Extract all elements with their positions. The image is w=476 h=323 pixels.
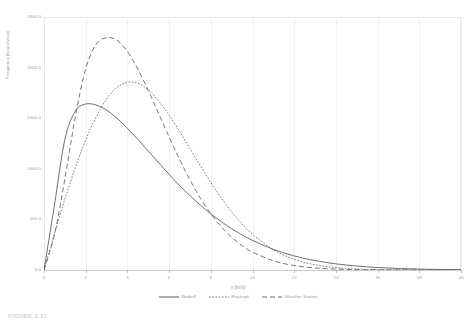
x-tick-label: 12 <box>284 275 304 280</box>
x-tick-label: 8 <box>201 275 221 280</box>
x-tick-mark <box>336 270 337 273</box>
y-axis-tick-labels: 0.0500.01000.01500.02000.02500.0 <box>0 17 41 270</box>
x-tick-mark <box>86 270 87 273</box>
x-tick-label: 20 <box>451 275 471 280</box>
x-tick-mark <box>169 270 170 273</box>
legend-item[interactable]: Weibull <box>159 294 196 299</box>
legend-label: Weibull <box>181 294 196 299</box>
x-tick-mark <box>253 270 254 273</box>
x-tick-label: 18 <box>409 275 429 280</box>
y-tick-label: 2000.0 <box>7 65 41 70</box>
legend-label: Weather Station <box>285 294 318 299</box>
chart-legend: WeibullRayleighWeather Station <box>0 294 476 299</box>
series-line <box>44 38 461 270</box>
chart-curves <box>44 17 461 270</box>
x-tick-mark <box>294 270 295 273</box>
y-tick-label: 0.0 <box>7 267 41 272</box>
y-tick-label: 1000.0 <box>7 166 41 171</box>
legend-item[interactable]: Rayleigh <box>209 294 249 299</box>
gridline-vertical <box>461 17 462 270</box>
x-tick-label: 14 <box>326 275 346 280</box>
curves-svg <box>44 17 461 270</box>
legend-swatch-dotted <box>209 295 229 299</box>
y-tick-label: 500.0 <box>7 216 41 221</box>
legend-label: Rayleigh <box>232 294 250 299</box>
x-axis-tick-labels: 02468101214161820 <box>44 270 461 284</box>
x-tick-label: 10 <box>243 275 263 280</box>
legend-item[interactable]: Weather Station <box>262 294 317 299</box>
x-tick-mark <box>211 270 212 273</box>
x-tick-label: 6 <box>159 275 179 280</box>
x-tick-label: 4 <box>117 275 137 280</box>
y-tick-label: 1500.0 <box>7 115 41 120</box>
series-line <box>44 104 461 270</box>
x-tick-mark <box>44 270 45 273</box>
y-tick-label: 2500.0 <box>7 14 41 19</box>
x-tick-label: 0 <box>34 275 54 280</box>
x-tick-label: 2 <box>76 275 96 280</box>
legend-swatch-solid <box>159 295 179 299</box>
x-tick-label: 16 <box>368 275 388 280</box>
legend-swatch-dashed <box>262 295 282 299</box>
x-tick-mark <box>419 270 420 273</box>
figure-caption: FIGURE 2.11 <box>8 313 47 321</box>
figure-container: Frequency [hours/year] 0.0500.01000.0150… <box>0 0 476 323</box>
x-tick-mark <box>127 270 128 273</box>
x-axis-title: v [m/s] <box>0 285 476 290</box>
x-tick-mark <box>378 270 379 273</box>
x-tick-mark <box>461 270 462 273</box>
